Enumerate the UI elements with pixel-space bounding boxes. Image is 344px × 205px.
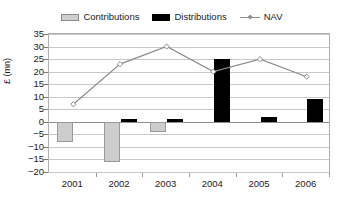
x-tick-label: 2005 [234,178,284,189]
y-tick-label: 30 [33,42,44,52]
x-tick-label: 2006 [281,178,331,189]
y-tick-label: 10 [33,92,44,102]
legend-label-distributions: Distributions [174,12,226,22]
y-tick-label: 15 [33,79,44,89]
nav-marker-2006 [304,74,309,79]
nav-marker-2005 [257,56,262,61]
x-tick-label: 2003 [141,178,191,189]
legend-label-contributions: Contributions [83,12,139,22]
y-tick-label: −20 [28,167,44,177]
nav-marker-2004 [211,69,216,74]
x-tick-label: 2001 [47,178,97,189]
x-tick-label: 2002 [94,178,144,189]
x-tick-mark [96,173,97,177]
chart-legend: Contributions Distributions NAV [0,8,344,26]
black-square-swatch-icon [152,14,170,21]
line-diamond-marker-icon [240,13,260,21]
gray-square-swatch-icon [61,14,79,21]
x-tick-mark [282,173,283,177]
x-tick-mark [189,173,190,177]
legend-item-distributions: Distributions [152,12,226,22]
x-tick-mark [236,173,237,177]
legend-label-nav: NAV [264,12,283,22]
y-tick-label: −5 [33,129,44,139]
y-tick-label: −10 [28,142,44,152]
y-tick-label: 25 [33,54,44,64]
x-tick-label: 2004 [187,178,237,189]
y-tick-label: 35 [33,29,44,39]
y-tick-label: −15 [28,154,44,164]
legend-item-contributions: Contributions [61,12,139,22]
nav-line-series [49,34,329,172]
nav-marker-2003 [164,44,169,49]
plot-area [48,33,330,173]
y-axis-title: £ (mn) [2,58,12,84]
y-tick-label: 20 [33,67,44,77]
legend-item-nav: NAV [240,12,283,22]
chart-container: Contributions Distributions NAV £ (mn) −… [0,0,344,205]
gridline [49,172,329,173]
x-tick-mark [329,173,330,177]
x-tick-mark [142,173,143,177]
